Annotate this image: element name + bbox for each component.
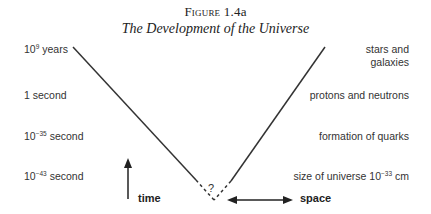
cone-right-edge-dashed xyxy=(214,181,231,200)
unknown-origin-marker: ? xyxy=(208,182,214,194)
space-arrow-left-icon xyxy=(227,196,237,204)
time-arrow-icon xyxy=(124,158,132,168)
space-axis-label: space xyxy=(300,192,331,205)
event-label-2: formation of quarks xyxy=(319,130,409,143)
cone-left-edge xyxy=(73,47,196,180)
event-label-0: stars and galaxies xyxy=(366,43,409,69)
space-arrow-right-icon xyxy=(283,196,293,204)
event-label-3: size of universe 10−33 cm xyxy=(293,170,409,183)
time-label-2: 10−35 second xyxy=(24,130,84,143)
time-label-3: 10−43 second xyxy=(24,170,84,183)
time-axis-label: time xyxy=(138,192,161,205)
time-label-1: 1 second xyxy=(24,89,67,102)
cone-right-edge xyxy=(231,47,325,181)
figure: Figure 1.4a The Development of the Unive… xyxy=(0,0,431,214)
time-label-0: 109 years xyxy=(24,43,68,56)
event-label-1: protons and neutrons xyxy=(310,89,409,102)
